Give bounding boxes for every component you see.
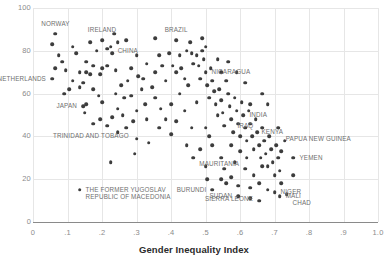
data-point xyxy=(262,139,266,143)
point-label: MAURITANIA xyxy=(199,160,239,167)
data-point xyxy=(195,100,199,104)
data-point xyxy=(224,182,228,186)
gridline-vertical xyxy=(33,8,34,222)
data-point xyxy=(81,81,85,85)
data-point xyxy=(135,109,139,113)
data-point xyxy=(157,53,161,57)
data-point xyxy=(199,147,203,151)
point-label: CHAD xyxy=(293,199,311,206)
data-point xyxy=(85,103,89,107)
data-point xyxy=(278,169,282,173)
gridline-vertical xyxy=(378,8,379,222)
data-point xyxy=(190,51,194,55)
data-point xyxy=(230,175,234,179)
point-label: NICARAGUA xyxy=(212,68,251,75)
data-point xyxy=(207,135,211,139)
gridline-vertical xyxy=(344,8,345,222)
data-point xyxy=(205,83,209,87)
data-point xyxy=(71,79,75,83)
x-tick-label: .2 xyxy=(99,228,106,237)
data-point xyxy=(238,135,242,139)
data-point xyxy=(54,66,58,70)
data-point xyxy=(62,92,66,96)
data-point xyxy=(105,64,109,68)
data-point xyxy=(226,60,230,64)
data-point xyxy=(126,79,130,83)
plot-area: NORWAYIRELANDCHINABRAZILNICARAGUANETHERL… xyxy=(33,8,378,222)
x-axis-title: Gender Inequality Index xyxy=(0,244,388,255)
gridline-horizontal xyxy=(33,51,378,52)
data-point xyxy=(135,137,139,141)
data-point xyxy=(159,107,163,111)
data-point xyxy=(157,126,161,130)
data-point xyxy=(88,73,92,77)
data-point xyxy=(64,68,68,72)
data-point xyxy=(204,45,208,49)
data-point xyxy=(216,113,220,117)
data-point xyxy=(269,147,273,151)
x-tick-label: .7 xyxy=(271,228,278,237)
data-point xyxy=(240,100,244,104)
data-point xyxy=(154,96,158,100)
data-point xyxy=(92,88,96,92)
data-point xyxy=(133,152,137,156)
data-point xyxy=(205,177,209,181)
data-point xyxy=(200,36,204,40)
data-point xyxy=(124,38,128,42)
data-point xyxy=(74,51,78,55)
data-point xyxy=(230,143,234,147)
data-point xyxy=(243,167,247,171)
data-point xyxy=(186,83,190,87)
data-point xyxy=(100,66,104,70)
data-point xyxy=(97,94,101,98)
gridline-vertical xyxy=(309,8,310,222)
x-tick-label: .8 xyxy=(306,228,313,237)
data-point xyxy=(130,94,134,98)
data-point xyxy=(114,68,118,72)
x-tick-label: .4 xyxy=(168,228,175,237)
data-point xyxy=(150,85,154,89)
data-point xyxy=(261,165,265,169)
data-point xyxy=(249,186,253,190)
data-point xyxy=(54,32,58,36)
data-point xyxy=(81,105,85,109)
data-point xyxy=(261,92,265,96)
data-point xyxy=(185,143,189,147)
data-point xyxy=(211,79,215,83)
data-point xyxy=(164,117,168,121)
point-label: SIERRA LEONE xyxy=(205,195,253,202)
point-label: JAPAN xyxy=(56,102,77,109)
gridline-horizontal xyxy=(33,8,378,9)
data-point xyxy=(67,88,71,92)
data-point xyxy=(161,64,165,68)
data-point xyxy=(98,117,102,121)
data-point xyxy=(78,70,82,74)
point-label: KENYA xyxy=(262,128,284,135)
data-point xyxy=(164,79,168,83)
data-point xyxy=(114,92,118,96)
data-point xyxy=(219,177,223,181)
data-point xyxy=(61,60,65,64)
data-point xyxy=(178,92,182,96)
data-point xyxy=(136,75,140,79)
data-point xyxy=(280,150,284,154)
x-tick-label: 1.0 xyxy=(372,228,383,237)
data-point xyxy=(50,77,54,81)
data-point xyxy=(245,156,249,160)
y-tick-label: 40 xyxy=(5,132,31,140)
data-point xyxy=(292,173,296,177)
point-label: IRELAND xyxy=(88,26,116,33)
data-point xyxy=(250,135,254,139)
data-point xyxy=(204,126,208,130)
data-point xyxy=(249,103,253,107)
data-point xyxy=(188,40,192,44)
x-tick-label: .5 xyxy=(202,228,209,237)
point-label: PAPUA NEW GUINEA xyxy=(286,135,351,142)
data-point xyxy=(183,77,187,81)
data-point xyxy=(88,40,92,44)
data-point xyxy=(236,184,240,188)
data-point xyxy=(50,43,54,47)
data-point xyxy=(145,117,149,121)
data-point xyxy=(130,66,134,70)
data-point xyxy=(169,103,173,107)
